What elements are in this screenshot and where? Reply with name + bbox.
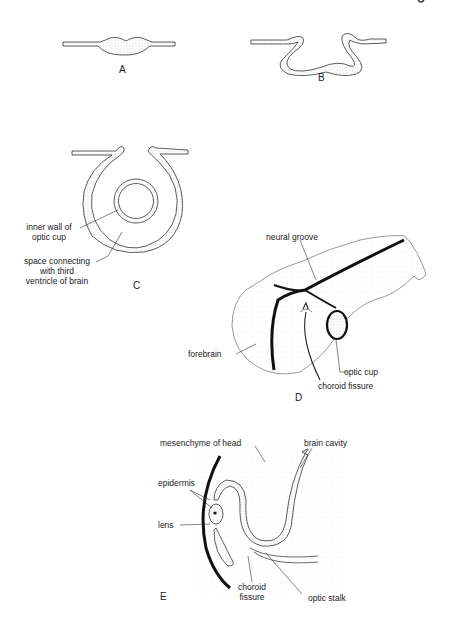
label-choroid-fissure-e: choroid fissure <box>232 582 272 602</box>
label-choroid-fissure-d: choroid fissure <box>318 381 373 391</box>
label-space-third-ventricle: space connecting with third ventricle of… <box>14 256 100 286</box>
label-epidermis: epidermis <box>158 478 195 488</box>
label-brain-cavity: brain cavity <box>304 438 347 448</box>
label-line: optic cup <box>14 232 84 242</box>
panel-d-drawing <box>232 236 426 381</box>
panel-label-e: E <box>160 591 167 602</box>
label-line: fissure <box>232 592 272 602</box>
label-mesenchyme-of-head: mesenchyme of head <box>160 438 241 448</box>
panel-c-drawing <box>72 147 188 262</box>
panel-b-drawing <box>251 33 386 75</box>
label-line: inner wall of <box>14 222 84 232</box>
panel-label-b: B <box>318 72 325 83</box>
panel-a-drawing <box>63 37 175 55</box>
label-line: choroid <box>232 582 272 592</box>
label-neural-groove: neural groove <box>266 232 318 242</box>
corner-glyph-fragment <box>418 0 424 2</box>
label-optic-cup: optic cup <box>344 367 378 377</box>
panel-label-a: A <box>119 64 126 75</box>
panel-e-drawing <box>180 444 346 594</box>
label-line: ventricle of brain <box>14 276 100 286</box>
panel-label-c: C <box>133 280 140 291</box>
panel-label-d: D <box>295 392 302 403</box>
label-inner-wall-optic-cup: inner wall of optic cup <box>14 222 84 242</box>
embryology-diagram <box>0 0 454 625</box>
label-line: space connecting <box>14 256 100 266</box>
label-optic-stalk: optic stalk <box>308 593 346 603</box>
label-line: with third <box>14 266 100 276</box>
label-lens: lens <box>158 520 174 530</box>
label-forebrain: forebrain <box>188 349 222 359</box>
